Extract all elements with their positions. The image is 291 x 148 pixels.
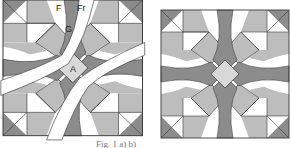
label-a: A — [70, 65, 76, 74]
label-fr: Fr — [77, 4, 86, 13]
right-panel-pattern — [161, 10, 289, 138]
figure-caption: Fig. 1 a) b) — [96, 139, 136, 148]
label-f: F — [56, 4, 62, 13]
figure-canvas — [0, 0, 291, 148]
label-g: G — [65, 25, 72, 34]
